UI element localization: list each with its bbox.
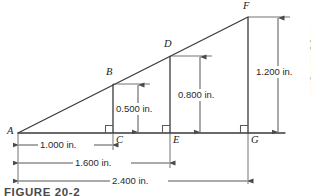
vertex-label-d: D [164, 39, 172, 50]
figure-container: A B C D E F G 0.500 in. 0.800 in. 1.200 … [0, 0, 311, 196]
dimension-label-de: 0.800 in. [178, 90, 214, 100]
vertex-label-f: F [243, 1, 249, 12]
right-angle-marker-e [163, 126, 171, 134]
vertex-label-e: E [173, 135, 179, 146]
triangle-diagram [0, 0, 311, 196]
segment-hypotenuse-af [18, 17, 248, 133]
vertex-label-c: C [116, 135, 123, 146]
vertex-label-b: B [106, 67, 112, 78]
right-angle-marker-c [106, 126, 114, 134]
dimension-label-ag: 2.400 in. [112, 176, 148, 186]
dimension-label-bc: 0.500 in. [116, 104, 152, 114]
vertex-label-a: A [7, 126, 13, 137]
right-angle-marker-g [241, 126, 249, 134]
vertex-label-g: G [251, 135, 259, 146]
dimension-label-ac: 1.000 in. [40, 140, 76, 150]
copyright-notice: © Cengage Learning 2013 [310, 21, 311, 96]
figure-caption: FIGURE 20-2 [4, 186, 80, 196]
dimension-label-fg: 1.200 in. [256, 67, 292, 77]
dimension-label-ae: 1.600 in. [75, 158, 111, 168]
